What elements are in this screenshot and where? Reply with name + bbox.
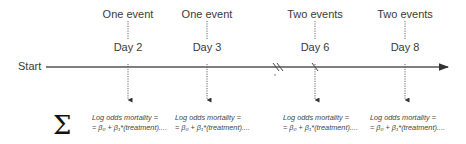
formula-line1: Log odds mortality =	[283, 113, 358, 123]
formula-line1: Log odds mortality =	[92, 113, 167, 123]
formula-block: Log odds mortality = = β₀ + β₁*(treatmen…	[92, 113, 167, 133]
event-label: Two events	[377, 8, 433, 20]
day-label: Day 3	[193, 41, 222, 53]
summation-icon: Σ	[53, 112, 71, 138]
event-label: One event	[103, 8, 154, 20]
day-label: Day 6	[301, 41, 330, 53]
formula-block: Log odds mortality = = β₀ + β₁*(treatmen…	[175, 113, 250, 133]
start-label: Start	[18, 60, 41, 72]
day-label: Day 2	[114, 41, 143, 53]
day-label: Day 8	[391, 41, 420, 53]
formula-line2: = β₀ + β₁*(treatment)....	[283, 123, 358, 133]
formula-line1: Log odds mortality =	[370, 113, 445, 123]
event-label: Two events	[287, 8, 343, 20]
event-label: One event	[182, 8, 233, 20]
formula-line2: = β₀ + β₁*(treatment)....	[370, 123, 445, 133]
formula-block: Log odds mortality = = β₀ + β₁*(treatmen…	[283, 113, 358, 133]
formula-line2: = β₀ + β₁*(treatment)....	[175, 123, 250, 133]
formula-line1: Log odds mortality =	[175, 113, 250, 123]
formula-block: Log odds mortality = = β₀ + β₁*(treatmen…	[370, 113, 445, 133]
formula-line2: = β₀ + β₁*(treatment)....	[92, 123, 167, 133]
